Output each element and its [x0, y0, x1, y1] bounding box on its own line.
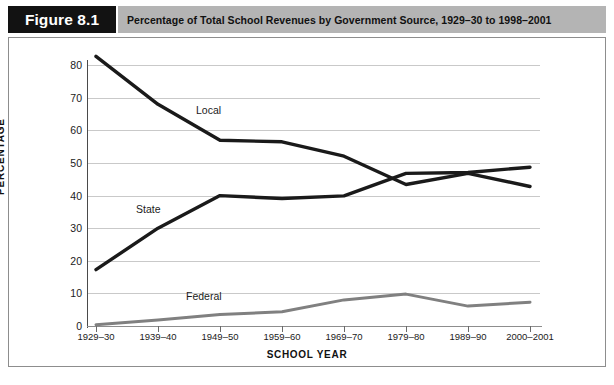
series-label-state: State: [136, 203, 161, 215]
source-note: [8, 374, 606, 382]
series-label-federal: Federal: [186, 290, 222, 302]
line-series-local: [96, 56, 530, 186]
line-series-state: [96, 167, 530, 269]
line-series-federal: [96, 294, 530, 325]
figure-root: Figure 8.1 Percentage of Total School Re…: [0, 0, 614, 385]
chart-lines: [0, 0, 614, 385]
series-label-local: Local: [196, 104, 221, 116]
